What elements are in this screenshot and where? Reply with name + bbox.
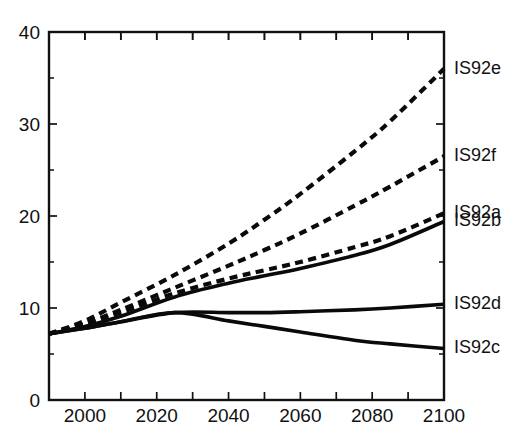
x-tick-label: 2000 <box>64 405 106 426</box>
y-tick-label: 20 <box>19 206 40 227</box>
y-tick-label: 10 <box>19 298 40 319</box>
y-tick-label: 40 <box>19 22 40 43</box>
series-label-is92d: IS92d <box>454 293 501 313</box>
x-tick-label: 2020 <box>136 405 178 426</box>
series-label-is92c: IS92c <box>454 337 500 357</box>
chart-figure: 010203040 200020202040206020802100 IS92e… <box>0 0 525 438</box>
emissions-line-chart: 010203040 200020202040206020802100 IS92e… <box>0 0 525 438</box>
x-tick-label: 2040 <box>207 405 249 426</box>
x-tick-label: 2100 <box>423 405 465 426</box>
x-tick-label: 2060 <box>279 405 321 426</box>
series-label-is92e: IS92e <box>454 58 501 78</box>
x-tick-label: 2080 <box>351 405 393 426</box>
y-tick-label: 30 <box>19 114 40 135</box>
series-label-is92b: IS92b <box>454 210 501 230</box>
y-tick-label: 0 <box>29 390 40 411</box>
series-label-is92f: IS92f <box>454 145 497 165</box>
